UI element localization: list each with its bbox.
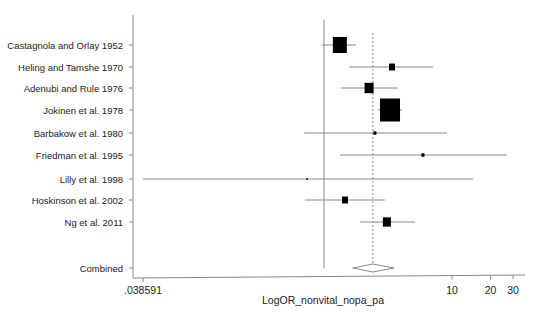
x-tick-label: 30 (507, 284, 519, 296)
study-label: Adenubi and Rule 1976 (24, 83, 123, 94)
study-label: Lilly et al. 1998 (60, 174, 123, 185)
effect-size-box (383, 217, 391, 226)
x-ticks: .038591102030 (124, 275, 519, 296)
effect-size-box (421, 153, 424, 156)
study-estimates (143, 37, 507, 227)
x-tick-label: 10 (446, 284, 458, 296)
effect-size-box (342, 197, 348, 204)
study-label: Jokinen et al. 1978 (43, 105, 123, 116)
effect-size-box (373, 131, 376, 134)
study-label: Castagnola and Orlay 1952 (7, 40, 123, 51)
study-label: Ng et al. 2011 (65, 217, 123, 228)
x-tick-label: .038591 (124, 284, 162, 296)
study-label: Hoskinson et al. 2002 (32, 195, 123, 206)
study-label: Heling and Tamshe 1970 (18, 62, 123, 73)
combined-diamond (353, 264, 394, 272)
combined-label: Combined (80, 263, 123, 274)
study-label: Barbakow et al. 1980 (34, 128, 123, 139)
study-labels: Castagnola and Orlay 1952Heling and Tams… (7, 40, 133, 274)
x-axis-label: LogOR_nonvital_nopa_pa (262, 294, 384, 306)
effect-size-box (333, 37, 347, 53)
x-tick-label: 20 (485, 284, 497, 296)
forest-plot: Castagnola and Orlay 1952Heling and Tams… (0, 0, 535, 317)
effect-size-box (365, 83, 374, 93)
effect-size-box (389, 64, 395, 71)
study-label: Friedman et al. 1995 (36, 150, 123, 161)
effect-size-box (306, 178, 308, 180)
x-axis (133, 275, 525, 278)
effect-size-box (380, 99, 400, 122)
